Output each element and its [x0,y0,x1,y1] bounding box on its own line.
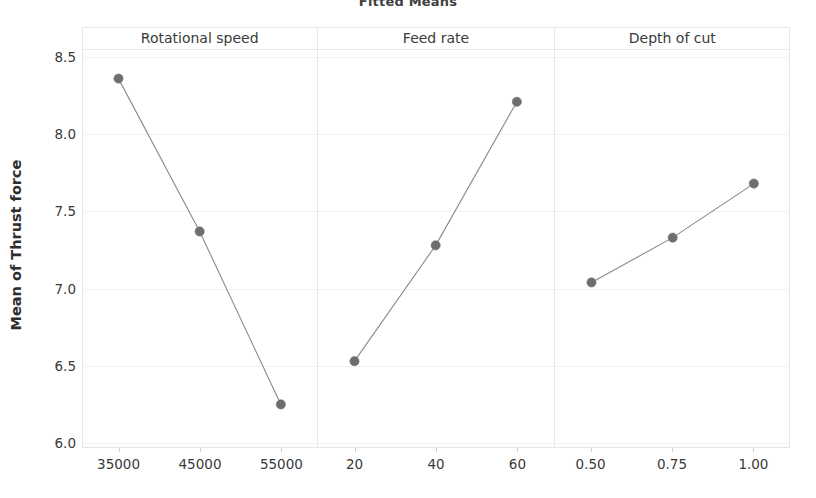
x-axis-tick-label: 45000 [179,456,222,472]
panel-header-2: Feed rate [318,27,554,49]
y-axis-tick-label: 6.5 [38,358,76,374]
y-axis-title: Mean of Thrust force [4,120,28,370]
panel-3 [555,50,790,448]
series-plot [318,50,553,448]
y-axis-tick-label: 7.5 [38,203,76,219]
x-axis-tick-labels: 3500045000550002040600.500.751.00 [82,452,790,478]
panel-header-band: Rotational speedFeed rateDepth of cut [82,27,790,50]
x-axis-tick-label: 35000 [97,456,140,472]
x-tick-group-1: 350004500055000 [82,452,318,478]
y-axis-tick-label: 7.0 [38,281,76,297]
x-axis-tick-label: 60 [509,456,526,472]
panel-header-1: Rotational speed [82,27,318,49]
data-point [513,97,522,106]
x-tick-mark [436,448,437,452]
series-line [355,102,517,361]
data-point [668,233,677,242]
data-point [276,400,285,409]
x-axis-tick-label: 55000 [260,456,303,472]
y-axis-tick-label: 8.0 [38,126,76,142]
series-line [118,79,280,405]
x-tick-mark [281,448,282,452]
data-point [195,227,204,236]
data-point [587,278,596,287]
x-tick-mark [591,448,592,452]
y-axis-tick-label: 6.0 [38,435,76,451]
panel-header-3: Depth of cut [555,27,790,49]
x-tick-mark [119,448,120,452]
panel-2 [318,50,554,448]
data-point [114,74,123,83]
x-tick-group-2: 204060 [318,452,554,478]
series-plot [555,50,790,448]
data-point [350,357,359,366]
y-axis-tick-label: 8.5 [38,49,76,65]
y-axis-title-text: Mean of Thrust force [8,160,24,331]
series-plot [82,50,317,448]
x-tick-group-3: 0.500.751.00 [554,452,790,478]
y-axis-tick-labels: 8.58.07.57.06.56.0 [38,50,76,448]
x-tick-mark [200,448,201,452]
main-effects-plot: Fitted Means Mean of Thrust force 8.58.0… [0,0,816,498]
x-tick-mark [355,448,356,452]
data-point [749,179,758,188]
x-axis-tick-label: 0.50 [576,456,606,472]
panel-container [82,50,790,448]
x-axis-tick-label: 1.00 [738,456,768,472]
x-axis-tick-label: 20 [346,456,363,472]
x-tick-mark [517,448,518,452]
x-axis-tick-label: 40 [427,456,444,472]
x-tick-mark [672,448,673,452]
x-axis-tick-label: 0.75 [657,456,687,472]
chart-title: Fitted Means [0,0,816,9]
data-point [431,241,440,250]
x-tick-mark [753,448,754,452]
panel-1 [82,50,318,448]
